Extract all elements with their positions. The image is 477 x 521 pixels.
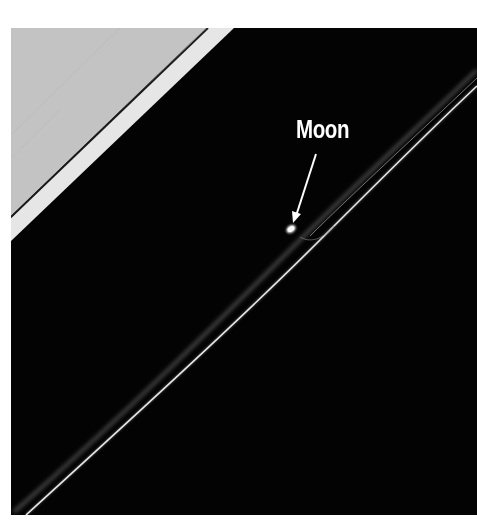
ring-moon-image xyxy=(0,0,477,521)
moon-label: Moon xyxy=(296,117,349,142)
